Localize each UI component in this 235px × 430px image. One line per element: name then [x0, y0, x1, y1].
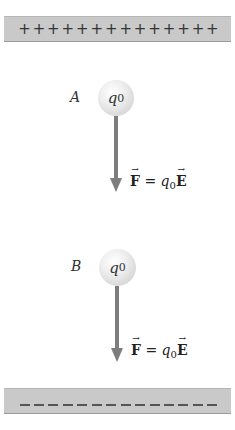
minus-sign-icon: [206, 394, 219, 409]
charge-subscript: 0: [119, 261, 126, 274]
minus-sign-icon: [47, 394, 60, 409]
plus-sign-icon: +: [47, 22, 60, 37]
plus-sign-icon: +: [90, 22, 103, 37]
minus-sign-icon: [148, 394, 161, 409]
minus-sign-icon: [18, 394, 31, 409]
force-vector: F: [131, 342, 141, 358]
force-arrow-b-icon: [111, 286, 123, 362]
minus-sign-icon: [177, 394, 190, 409]
plus-sign-icon: +: [32, 22, 45, 37]
plus-sign-icon: +: [191, 22, 204, 37]
field-vector: E: [177, 342, 188, 358]
minus-sign-icon: [119, 394, 132, 409]
test-charge-a: q0: [98, 80, 134, 116]
coefficient: q: [161, 173, 170, 189]
minus-sign-icon: [191, 394, 204, 409]
plus-sign-icon: +: [76, 22, 89, 37]
plus-sign-icon: +: [105, 22, 118, 37]
charge-symbol: q: [109, 259, 119, 277]
plus-sign-icon: +: [61, 22, 74, 37]
coefficient: q: [162, 342, 171, 358]
plus-sign-icon: +: [163, 22, 176, 37]
minus-sign-icon: [163, 394, 176, 409]
minus-sign-icon: [105, 394, 118, 409]
charge-subscript: 0: [117, 92, 124, 105]
plus-sign-icon: +: [206, 22, 219, 37]
equals-sign: =: [141, 342, 162, 358]
minus-sign-icon: [76, 394, 89, 409]
plus-sign-icon: +: [134, 22, 147, 37]
plus-sign-icon: +: [177, 22, 190, 37]
force-arrow-a-icon: [110, 116, 122, 192]
negative-plate: [4, 388, 231, 414]
field-vector: E: [176, 173, 187, 189]
positive-plate: ++++++++++++++: [4, 16, 231, 42]
force-equation-b: F = q0E: [131, 342, 188, 360]
plus-sign-icon: +: [18, 22, 31, 37]
force-vector: F: [130, 173, 140, 189]
minus-sign-icon: [61, 394, 74, 409]
point-label-b: B: [71, 258, 81, 274]
force-equation-a: F = q0E: [130, 173, 187, 191]
charge-symbol: q: [108, 89, 118, 107]
minus-sign-icon: [134, 394, 147, 409]
point-label-a: A: [70, 89, 80, 105]
equals-sign: =: [140, 173, 161, 189]
minus-sign-icon: [90, 394, 103, 409]
plus-sign-icon: +: [119, 22, 132, 37]
test-charge-b: q0: [99, 249, 136, 286]
minus-sign-icon: [32, 394, 45, 409]
plus-sign-icon: +: [148, 22, 161, 37]
